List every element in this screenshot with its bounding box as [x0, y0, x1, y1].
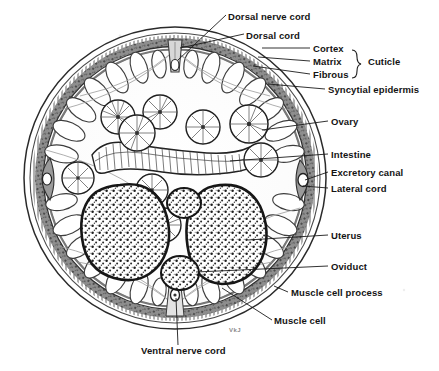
- label-intestine: Intestine: [331, 150, 371, 160]
- artist-signature: VkJ: [229, 327, 241, 333]
- label-uterus: Uterus: [331, 231, 362, 241]
- dorsal-nerve-cord: [171, 60, 179, 71]
- label-dorsal-cord: Dorsal cord: [246, 31, 300, 41]
- label-fibrous: Fibrous: [313, 70, 349, 80]
- uterus: [81, 184, 169, 280]
- label-cortex: Cortex: [313, 44, 344, 54]
- excretory-canal: [298, 174, 308, 187]
- cuticle-brace: [352, 50, 361, 78]
- label-matrix: Matrix: [313, 57, 342, 67]
- oviduct: [161, 256, 199, 290]
- label-syncytial-epidermis: Syncytial epidermis: [328, 85, 419, 95]
- ovary: [230, 105, 268, 143]
- excretory-canal: [43, 173, 52, 185]
- label-excretory-canal: Excretory canal: [331, 168, 403, 178]
- label-ventral-nerve-cord: Ventral nerve cord: [141, 346, 226, 356]
- ovary: [119, 115, 155, 151]
- leader-matrix: [258, 57, 310, 61]
- ovary: [186, 110, 220, 144]
- label-lateral-cord: Lateral cord: [331, 184, 387, 194]
- label-muscle-cell-process: Muscle cell process: [291, 288, 383, 298]
- label-muscle-cell: Muscle cell: [274, 316, 326, 326]
- label-dorsal-nerve-cord: Dorsal nerve cord: [228, 12, 310, 22]
- label-cuticle: Cuticle: [368, 57, 400, 67]
- oviduct: [167, 188, 201, 218]
- label-ovary: Ovary: [331, 117, 358, 127]
- ovary: [62, 162, 94, 194]
- dorsal-cord: [168, 40, 182, 72]
- label-oviduct: Oviduct: [331, 262, 367, 272]
